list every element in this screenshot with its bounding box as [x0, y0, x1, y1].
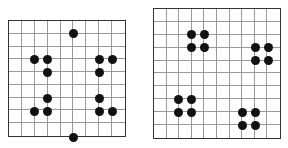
grid-cell	[217, 61, 230, 74]
grid-cell	[242, 9, 255, 22]
grid-cell	[217, 112, 230, 125]
grid-cell	[154, 73, 167, 86]
dot-marker	[95, 94, 104, 103]
grid-cell	[9, 59, 22, 72]
grid-cell	[167, 61, 180, 74]
dot-marker	[30, 107, 39, 116]
grid-cell	[230, 35, 243, 48]
grid-cell	[61, 85, 74, 98]
grid-cell	[112, 123, 125, 136]
grid-cell	[267, 125, 280, 138]
grid-cell	[35, 34, 48, 47]
dot-marker	[200, 30, 209, 39]
dot-marker	[264, 56, 273, 65]
grid-cell	[22, 123, 35, 136]
grid-cell	[22, 34, 35, 47]
grid-cell	[167, 125, 180, 138]
grid-cell	[73, 98, 86, 111]
grid-cell	[192, 9, 205, 22]
grid-cell	[230, 86, 243, 99]
grid-cell	[154, 61, 167, 74]
grid-cell	[9, 21, 22, 34]
grid-cell	[73, 110, 86, 123]
dot-marker	[108, 55, 117, 64]
dot-marker	[187, 43, 196, 52]
grid-cell	[86, 123, 99, 136]
grid-cell	[86, 34, 99, 47]
grid-cell	[255, 73, 268, 86]
dot-marker	[95, 68, 104, 77]
dot-marker	[30, 55, 39, 64]
grid-cell	[9, 72, 22, 85]
grid-cell	[9, 47, 22, 60]
dot-marker	[43, 55, 52, 64]
grid-cell	[217, 22, 230, 35]
grid-cell	[242, 22, 255, 35]
grid-cell	[73, 47, 86, 60]
dot-marker	[251, 43, 260, 52]
grid-cell	[35, 21, 48, 34]
grid-cell	[217, 99, 230, 112]
grid-cell	[35, 123, 48, 136]
grid-cell	[48, 123, 61, 136]
grid-cell	[154, 125, 167, 138]
grid-cell	[242, 86, 255, 99]
grid-cell	[154, 86, 167, 99]
grid-cell	[255, 22, 268, 35]
grid-cell	[112, 72, 125, 85]
grid-cell	[61, 59, 74, 72]
grid-cell	[61, 110, 74, 123]
dot-marker	[251, 56, 260, 65]
grid-cell	[112, 34, 125, 47]
grid-cell	[267, 9, 280, 22]
grid-cell	[255, 86, 268, 99]
grid-cell	[154, 9, 167, 22]
grid-cell	[230, 73, 243, 86]
grid-cell	[204, 73, 217, 86]
grid-cell	[154, 48, 167, 61]
grid-cell	[73, 72, 86, 85]
grid-cell	[167, 48, 180, 61]
grid-cell	[112, 21, 125, 34]
grid-cell	[217, 73, 230, 86]
grid-cell	[99, 21, 112, 34]
grid-cell	[217, 86, 230, 99]
grid-cell	[267, 112, 280, 125]
grid-cell	[48, 34, 61, 47]
grid-cell	[61, 72, 74, 85]
dot-marker	[69, 29, 78, 38]
grid-cell	[217, 48, 230, 61]
grid-cell	[267, 22, 280, 35]
grid-cell	[154, 35, 167, 48]
grid-cell	[217, 9, 230, 22]
grid-cell	[48, 21, 61, 34]
grid-cell	[9, 85, 22, 98]
grid-cell	[9, 123, 22, 136]
grid-cell	[230, 9, 243, 22]
dot-marker	[108, 107, 117, 116]
grid-cell	[204, 86, 217, 99]
dot-marker	[43, 107, 52, 116]
grid-cell	[267, 99, 280, 112]
dot-marker	[95, 55, 104, 64]
grid-cell	[73, 59, 86, 72]
grid-cell	[9, 34, 22, 47]
grid-cell	[154, 99, 167, 112]
grid-cell	[167, 35, 180, 48]
grid-cell	[99, 34, 112, 47]
grid-cell	[217, 125, 230, 138]
grid-cell	[9, 110, 22, 123]
grid-cell	[267, 86, 280, 99]
grid-cell	[86, 21, 99, 34]
dot-marker	[200, 43, 209, 52]
grid-cell	[167, 9, 180, 22]
grid-cell	[204, 99, 217, 112]
grid-cell	[267, 73, 280, 86]
dot-marker	[187, 30, 196, 39]
grid-cell	[73, 85, 86, 98]
grid-cell	[154, 22, 167, 35]
dot-marker	[69, 133, 78, 142]
grid-cell	[192, 73, 205, 86]
grid-cell	[167, 73, 180, 86]
grid-cell	[61, 47, 74, 60]
